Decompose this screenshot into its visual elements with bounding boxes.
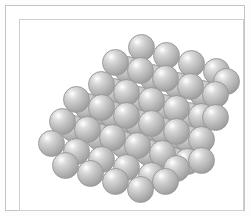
- lattice-sphere: [127, 176, 154, 203]
- lattice-sphere: [188, 147, 215, 174]
- lattice-sphere: [77, 160, 104, 187]
- inner-frame: [19, 19, 244, 211]
- lattice-sphere: [152, 168, 179, 195]
- lattice-sphere: [102, 168, 129, 195]
- sphere-lattice-stage: [20, 20, 243, 210]
- figure-root: [0, 0, 251, 216]
- lattice-sphere: [52, 152, 79, 179]
- outer-frame: [5, 5, 245, 211]
